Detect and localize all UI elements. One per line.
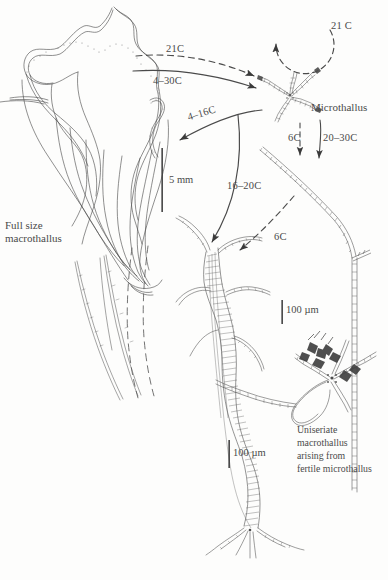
label-temp-16-20c: 16–20C (227, 180, 261, 192)
microthallus-drawing (257, 67, 322, 122)
label-temp-20-30c: 20–30C (323, 132, 357, 144)
caption-uniseriate-line3: arising from (297, 450, 345, 463)
thin-blade-drawings (75, 246, 154, 400)
label-temp-6c-lower: 6C (274, 231, 287, 243)
label-temp-6c-upper: 6C (288, 132, 301, 144)
scale-bar-multiseriate-line (228, 440, 230, 468)
label-scale-5mm: 5 mm (169, 174, 193, 186)
label-temp-loop-21c: 21 C (331, 20, 352, 32)
label-temp-4-30c: 4–30C (153, 75, 182, 87)
arrow-macro-to-micro-solid (133, 70, 256, 88)
label-full-size-macrothallus-line1: Full size (5, 219, 43, 231)
full-size-macrothallus-drawing (0, 7, 169, 295)
scale-bar-uniseriate-line (281, 300, 283, 324)
scale-bar-macrothallus-line (161, 148, 163, 212)
life-cycle-illustration (0, 0, 388, 580)
multiseriate-macrothallus-drawing (176, 216, 304, 558)
figure-canvas: Full size macrothallus Microthallus 21 C… (0, 0, 388, 580)
arrow-microthallus-self-loop (276, 30, 334, 74)
caption-uniseriate-line2: macrothallus (297, 437, 348, 450)
caption-uniseriate-line4: fertile microthallus (297, 463, 372, 476)
caption-uniseriate-line1: Uniseriate (297, 424, 337, 437)
label-scale-100um-center: 100 µm (233, 447, 266, 459)
label-temp-21c: 21C (166, 43, 184, 55)
label-microthallus: Microthallus (311, 101, 367, 113)
arrow-micro-to-multiseriate (212, 115, 240, 242)
label-full-size-macrothallus-line2: macrothallus (5, 232, 62, 244)
arrow-micro-to-uniseriate-solid (319, 120, 321, 158)
label-scale-100um-right: 100 µm (286, 304, 319, 316)
